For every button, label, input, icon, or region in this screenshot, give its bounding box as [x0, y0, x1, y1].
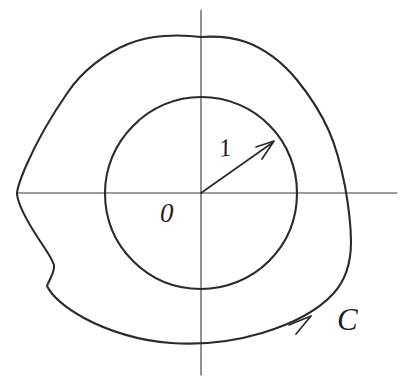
contour-label: C: [337, 302, 358, 338]
outer-contour-curve: [17, 35, 351, 343]
radius-arrow-shaft: [201, 143, 272, 193]
origin-label: 0: [160, 198, 174, 229]
contour-diagram: 0 1 C: [0, 0, 401, 380]
radius-arrow-head: [256, 141, 274, 159]
